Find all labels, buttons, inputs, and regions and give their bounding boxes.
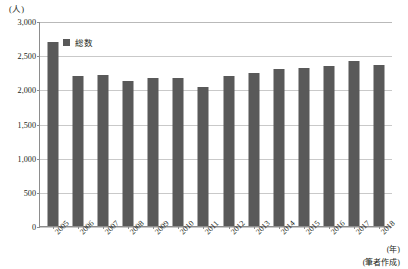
bar-slot: 2010 xyxy=(166,21,191,226)
bar xyxy=(198,87,209,226)
bar xyxy=(47,42,58,226)
bar-slot: 2018 xyxy=(367,21,392,226)
source-note: (筆者作成) xyxy=(363,256,400,267)
bar-chart: (人) 3,0002,5002,0001,5001,0005000 200520… xyxy=(0,0,408,269)
bar-slot: 2006 xyxy=(65,21,90,226)
bar xyxy=(148,78,159,226)
bar-slot: 2009 xyxy=(141,21,166,226)
y-axis-tick-label: 0 xyxy=(32,223,36,232)
bar xyxy=(374,65,385,226)
y-axis-tick-label: 3,000 xyxy=(18,18,36,27)
y-axis-tick-label: 2,000 xyxy=(18,86,36,95)
y-axis-tick-label: 500 xyxy=(24,188,36,197)
y-axis-unit-label: (人) xyxy=(9,2,24,14)
bar-series-総数: 2005200620072008200920102011201220132014… xyxy=(40,21,392,226)
bar xyxy=(72,76,83,226)
bar xyxy=(349,61,360,226)
y-axis-tick-label: 1,000 xyxy=(18,154,36,163)
legend: 総数 xyxy=(63,36,93,48)
bar-slot: 2011 xyxy=(191,21,216,226)
bar-slot: 2007 xyxy=(90,21,115,226)
bar xyxy=(248,73,259,226)
bar-slot: 2008 xyxy=(115,21,140,226)
bar xyxy=(122,81,133,226)
bar-slot: 2016 xyxy=(317,21,342,226)
bar-slot: 2012 xyxy=(216,21,241,226)
bar xyxy=(97,75,108,226)
y-axis-tick-label: 2,500 xyxy=(18,52,36,61)
plot-area: 3,0002,5002,0001,5001,0005000 2005200620… xyxy=(39,22,391,227)
bar xyxy=(223,76,234,226)
bar xyxy=(324,66,335,226)
bar-slot: 2015 xyxy=(291,21,316,226)
bar-slot: 2005 xyxy=(40,21,65,226)
y-axis-tick-mark xyxy=(37,227,40,228)
bar-slot: 2013 xyxy=(241,21,266,226)
bar-slot: 2017 xyxy=(342,21,367,226)
bar xyxy=(273,69,284,226)
bar xyxy=(173,78,184,226)
legend-label: 総数 xyxy=(75,36,93,48)
legend-swatch-icon xyxy=(63,39,70,46)
bar-slot: 2014 xyxy=(266,21,291,226)
bar xyxy=(298,68,309,226)
y-axis-tick-label: 1,500 xyxy=(18,120,36,129)
x-axis-unit-label: (年) xyxy=(387,243,400,254)
